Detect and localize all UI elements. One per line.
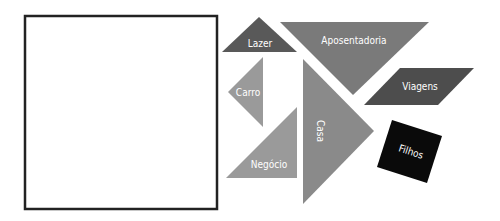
piece-filhos[interactable]: Filhos — [377, 120, 442, 183]
empty-board-square[interactable] — [25, 16, 217, 209]
piece-carro[interactable]: Carro — [228, 57, 263, 127]
negocio-label: Negócio — [251, 159, 288, 170]
viagens-label: Viagens — [402, 81, 438, 92]
lazer-label: Lazer — [248, 38, 273, 49]
tangram-stage: Lazer Aposentadoria Viagens Carro Negóci… — [0, 0, 500, 221]
aposentadoria-label: Aposentadoria — [321, 35, 386, 46]
carro-label: Carro — [236, 87, 261, 98]
piece-viagens[interactable]: Viagens — [364, 68, 474, 105]
casa-label: Casa — [315, 120, 326, 142]
